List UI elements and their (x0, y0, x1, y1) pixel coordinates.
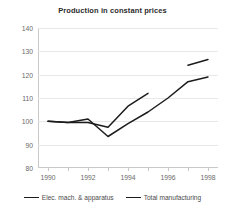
x-axis-tick-label: 1994 (120, 174, 135, 181)
series-line (188, 60, 208, 66)
x-axis-tick-mark (68, 168, 69, 171)
legend-line-icon (24, 197, 39, 199)
x-axis-tick-mark (148, 168, 149, 171)
legend-label: Total manufacturing (144, 194, 202, 201)
x-axis-tick-mark (48, 168, 49, 171)
x-axis-tick-mark (108, 168, 109, 171)
series-lines (38, 28, 218, 168)
x-axis-tick-mark (188, 168, 189, 171)
x-axis-tick-label: 1998 (200, 174, 215, 181)
x-axis-tick-label: 1996 (160, 174, 175, 181)
x-axis-tick-mark (208, 168, 209, 171)
y-axis-tick-label: 110 (22, 95, 33, 102)
legend-item-elec-mach: Elec. mach. & apparatus (24, 194, 114, 201)
y-axis-tick-label: 130 (22, 48, 33, 55)
y-axis-tick-label: 90 (25, 141, 33, 148)
legend-line-icon (126, 197, 141, 199)
x-axis-tick-mark (88, 168, 89, 171)
chart-title: Production in constant prices (0, 6, 225, 15)
plot-area: 8090100110120130140 19901992199419961998 (38, 28, 218, 168)
legend-item-total-manufacturing: Total manufacturing (126, 194, 202, 201)
chart-legend: Elec. mach. & apparatus Total manufactur… (0, 194, 225, 201)
chart-container: Production in constant prices 8090100110… (0, 0, 225, 215)
x-axis-tick-mark (128, 168, 129, 171)
y-axis-tick-label: 80 (25, 165, 33, 172)
y-axis-tick-label: 100 (22, 118, 33, 125)
y-axis-tick-label: 140 (22, 25, 33, 32)
x-axis-tick-label: 1990 (40, 174, 55, 181)
legend-label: Elec. mach. & apparatus (42, 194, 114, 201)
x-axis-tick-mark (168, 168, 169, 171)
y-axis-tick-label: 120 (22, 71, 33, 78)
x-axis-tick-label: 1992 (80, 174, 95, 181)
